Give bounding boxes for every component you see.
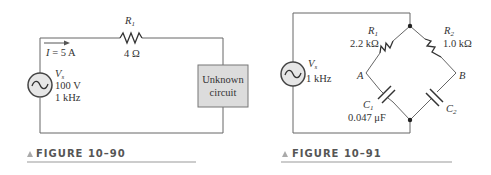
capacitor-c1-icon <box>378 86 391 99</box>
source-frequency: 1 kHz <box>306 73 332 84</box>
unknown-circuit-box <box>198 65 248 107</box>
box-line1: Unknown <box>202 74 244 85</box>
r2-name: R2 <box>443 25 454 38</box>
r1-name: R1 <box>367 25 378 38</box>
figure-caption-90: FIGURE 10–90 <box>36 148 126 159</box>
resistor-r1-icon <box>380 41 393 53</box>
c1-value: 0.047 μF <box>348 112 386 123</box>
node-bottom <box>408 118 412 122</box>
r1-value: 4 Ω <box>124 48 140 59</box>
r2-value: 1.0 kΩ <box>443 38 472 49</box>
c2-name: C2 <box>446 103 457 116</box>
current-arrow-icon <box>64 41 70 46</box>
wire-top-right <box>142 38 223 65</box>
c1-name: C1 <box>363 99 374 112</box>
source-voltage: 100 V <box>55 80 81 91</box>
r1-name: R1 <box>124 15 135 28</box>
node-a-label: A <box>356 70 364 81</box>
current-label: I = 5 A <box>45 47 76 58</box>
figure-caption-91: FIGURE 10–91 <box>292 148 382 159</box>
wire-bottom <box>40 98 223 133</box>
source-frequency: 1 kHz <box>55 92 81 103</box>
figures-canvas: R1 4 Ω I = 5 A Vs 100 V 1 kHz Unknown ci… <box>0 0 491 175</box>
resistor-r2-icon <box>425 39 441 57</box>
source-name: Vs <box>308 58 317 71</box>
box-line2: circuit <box>210 87 237 98</box>
resistor-r1-icon <box>120 33 142 43</box>
r1-value: 2.2 kΩ <box>350 38 379 49</box>
node-b-label: B <box>459 70 466 81</box>
node-top <box>408 24 412 28</box>
capacitor-c2-icon <box>430 89 443 102</box>
wire-top-left <box>40 38 120 85</box>
